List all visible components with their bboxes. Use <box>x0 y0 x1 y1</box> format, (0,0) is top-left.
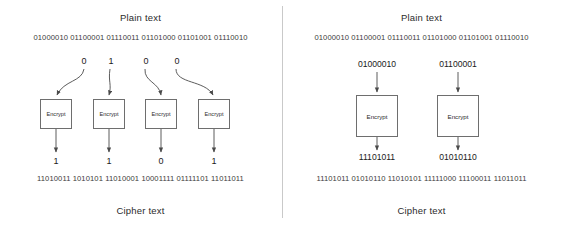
stream-cipher-panel: Plain text 01000010 01100001 01110011 01… <box>0 0 281 229</box>
block-cipher-panel: Plain text 01000010 01100001 01110011 01… <box>281 0 562 229</box>
cipher-text-bitstream: 11101011 01010110 11010101 11111000 1110… <box>281 174 562 183</box>
input-bit-3: 0 <box>139 56 153 66</box>
encrypt-box-label: Encrypt <box>152 111 171 117</box>
encrypt-box-3: Encrypt <box>145 99 177 129</box>
connector-in-4 <box>176 69 213 95</box>
cipher-text-heading: Cipher text <box>281 205 562 216</box>
connector-in-3 <box>145 69 161 95</box>
input-block-2: 01100001 <box>423 59 493 69</box>
cipher-text-heading: Cipher text <box>0 205 281 216</box>
encrypt-box-label: Encrypt <box>448 113 469 120</box>
input-bit-4: 0 <box>170 56 184 66</box>
encrypt-box-1: Encrypt <box>356 95 398 137</box>
connector-in-1 <box>57 69 84 95</box>
encrypt-box-4: Encrypt <box>198 99 230 129</box>
output-block-2: 01010110 <box>423 152 493 162</box>
encrypt-box-label: Encrypt <box>367 113 388 120</box>
input-bit-2: 1 <box>104 56 118 66</box>
block-connectors <box>281 0 562 229</box>
output-bit-1: 1 <box>49 156 63 166</box>
encrypt-box-2: Encrypt <box>437 95 479 137</box>
output-bit-4: 1 <box>207 156 221 166</box>
output-block-1: 11101011 <box>342 152 412 162</box>
encrypt-box-2: Encrypt <box>93 99 125 129</box>
stream-cipher-scene: 0 1 0 0 Encrypt Encrypt Encrypt Encrypt … <box>0 0 281 229</box>
cipher-text-bitstream: 11010011 1010101 11010001 10001111 01111… <box>0 174 281 183</box>
encrypt-box-label: Encrypt <box>205 111 224 117</box>
block-cipher-scene: 01000010 01100001 Encrypt Encrypt 111010… <box>281 0 562 229</box>
encrypt-box-label: Encrypt <box>100 111 119 117</box>
connector-in-2 <box>109 69 110 95</box>
output-bit-3: 0 <box>154 156 168 166</box>
input-bit-1: 0 <box>77 56 91 66</box>
input-block-1: 01000010 <box>342 59 412 69</box>
panel-divider <box>282 6 283 218</box>
output-bit-2: 1 <box>102 156 116 166</box>
encrypt-box-label: Encrypt <box>47 111 66 117</box>
encrypt-box-1: Encrypt <box>40 99 72 129</box>
